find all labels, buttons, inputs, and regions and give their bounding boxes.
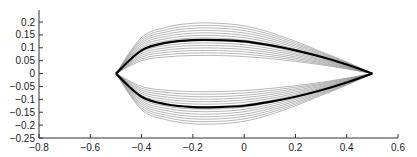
x-tick-label: −0.8	[29, 142, 49, 153]
y-tick-label: 0.15	[16, 29, 36, 40]
contour-chart: −0.8−0.6−0.4−0.200.20.40.6 0.20.150.10.0…	[0, 0, 417, 157]
contour-curves	[116, 23, 372, 124]
y-tick-label: 0.1	[21, 42, 35, 53]
y-tick-labels: 0.20.150.10.050−0.05−0.1−0.15−0.2−0.25	[10, 17, 43, 144]
x-tick-label: −0.2	[183, 142, 203, 153]
y-tick-label: 0.2	[21, 17, 35, 28]
y-tick-label: −0.2	[15, 120, 35, 131]
y-tick-label: −0.1	[15, 94, 35, 105]
x-tick-label: 0.2	[288, 142, 302, 153]
y-tick-label: 0	[29, 68, 35, 79]
thin-contour	[116, 33, 372, 74]
y-tick-label: −0.15	[10, 107, 36, 118]
y-tick-label: 0.05	[16, 55, 36, 66]
y-tick-label: −0.25	[10, 133, 36, 144]
x-tick-label: 0.4	[340, 142, 354, 153]
x-tick-label: −0.6	[80, 142, 100, 153]
thin-contour	[116, 74, 372, 115]
x-tick-labels: −0.8−0.6−0.4−0.200.20.40.6	[29, 134, 405, 153]
x-tick-label: 0.6	[391, 142, 405, 153]
x-tick-label: −0.4	[132, 142, 152, 153]
x-tick-label: 0	[241, 142, 247, 153]
y-tick-label: −0.05	[10, 81, 36, 92]
